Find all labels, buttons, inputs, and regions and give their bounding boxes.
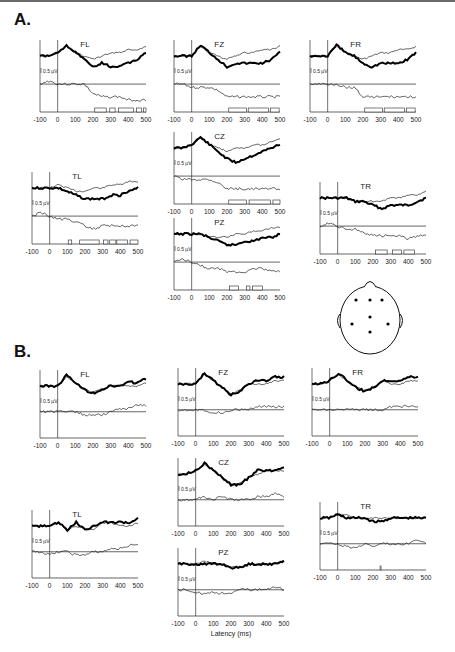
x-tick-label: 400 bbox=[257, 208, 268, 215]
x-tick-label: 100 bbox=[62, 582, 73, 589]
x-tick-label: 500 bbox=[279, 620, 290, 627]
x-tick-label: 400 bbox=[403, 258, 414, 265]
electrode-label: PZ bbox=[214, 218, 224, 227]
x-tick-label: 200 bbox=[358, 116, 369, 123]
x-tick-label: 200 bbox=[88, 116, 99, 123]
electrode-dot-pz bbox=[368, 330, 371, 333]
scale-bar-label: 0.5 µV bbox=[35, 538, 50, 544]
x-tick-label: -100 bbox=[33, 116, 46, 123]
x-tick-label: 0 bbox=[336, 258, 340, 265]
x-tick-label: -100 bbox=[167, 208, 180, 215]
x-tick-label: 300 bbox=[243, 530, 254, 537]
significance-bar bbox=[404, 250, 415, 254]
scale-bar-label: 0.5 µV bbox=[43, 398, 58, 404]
scale-bar-label: 0.5 µV bbox=[323, 530, 338, 536]
difference-waveform bbox=[312, 405, 418, 411]
electrode-dot-tr bbox=[386, 322, 389, 325]
x-tick-label: 400 bbox=[395, 440, 406, 447]
x-tick-label: 200 bbox=[360, 440, 371, 447]
x-tick-label: -100 bbox=[171, 440, 184, 447]
scale-bar-label: 0.5 µV bbox=[181, 396, 196, 402]
x-tick-label: 200 bbox=[222, 116, 233, 123]
electrode-label: FL bbox=[80, 370, 90, 379]
x-tick-label: 300 bbox=[385, 574, 396, 581]
significance-bar bbox=[380, 566, 381, 570]
x-tick-label: 200 bbox=[226, 440, 237, 447]
difference-waveform bbox=[320, 223, 426, 240]
erp-panel-b-tr: TR0.5 µV-1000100200300400500 bbox=[313, 502, 431, 581]
x-tick-label: 500 bbox=[275, 116, 286, 123]
x-tick-label: -100 bbox=[25, 582, 38, 589]
difference-waveform bbox=[178, 587, 284, 594]
x-tick-label: 300 bbox=[239, 116, 250, 123]
thick-waveform bbox=[320, 197, 426, 209]
erp-panel-b-fr: FR0.5 µV-1000100200300400500 bbox=[305, 368, 423, 447]
thick-waveform bbox=[40, 45, 146, 67]
x-axis-label: Latency (ms) bbox=[211, 630, 251, 638]
x-tick-label: 500 bbox=[141, 116, 152, 123]
erp-panel-a-tl: TL0.5 µV-1000100200300400500 bbox=[25, 172, 143, 255]
electrode-label: TL bbox=[72, 172, 82, 181]
erp-panel-b-tl: TL0.5 µV-1000100200300400500 bbox=[25, 510, 143, 589]
x-tick-label: 400 bbox=[115, 248, 126, 255]
significance-bar bbox=[80, 240, 99, 244]
electrode-label: CZ bbox=[214, 132, 225, 141]
electrode-dot-cz bbox=[368, 315, 371, 318]
erp-panel-b-cz: CZ0.5 µV-1000100200300400500 bbox=[171, 458, 289, 537]
electrode-dot-fz bbox=[368, 298, 371, 301]
x-tick-label: 500 bbox=[275, 294, 286, 301]
thin-waveform bbox=[174, 46, 280, 60]
difference-waveform bbox=[310, 83, 416, 98]
scale-bar-label: 0.5 µV bbox=[181, 576, 196, 582]
significance-bar bbox=[365, 108, 383, 112]
electrode-label: CZ bbox=[218, 458, 229, 467]
x-tick-label: 300 bbox=[105, 116, 116, 123]
x-tick-label: 0 bbox=[56, 116, 60, 123]
x-tick-label: 0 bbox=[336, 574, 340, 581]
x-tick-label: 100 bbox=[340, 116, 351, 123]
x-tick-label: 200 bbox=[222, 208, 233, 215]
significance-bar bbox=[143, 108, 146, 112]
significance-bar bbox=[406, 108, 415, 112]
thick-waveform bbox=[178, 373, 284, 395]
thick-waveform bbox=[40, 375, 146, 394]
thick-waveform bbox=[178, 561, 284, 569]
electrode-dot-tl bbox=[350, 322, 353, 325]
x-tick-label: 400 bbox=[261, 440, 272, 447]
scale-bar-label: 0.5 µV bbox=[177, 68, 192, 74]
significance-bar bbox=[376, 250, 387, 254]
x-tick-label: 500 bbox=[133, 248, 144, 255]
significance-bar bbox=[253, 286, 263, 290]
electrode-label: TL bbox=[72, 510, 82, 519]
erp-panel-a-fz: FZ0.5 µV-1000100200300400500 bbox=[167, 40, 285, 123]
significance-bar bbox=[392, 250, 401, 254]
x-tick-label: 300 bbox=[243, 440, 254, 447]
significance-bar bbox=[230, 286, 239, 290]
x-tick-label: 0 bbox=[48, 582, 52, 589]
x-tick-label: 200 bbox=[226, 530, 237, 537]
x-tick-label: 500 bbox=[141, 442, 152, 449]
erp-panel-a-pz: PZ0.5 µV-1000100200300400500 bbox=[167, 218, 285, 301]
x-tick-label: 0 bbox=[194, 620, 198, 627]
significance-bar bbox=[104, 240, 108, 244]
x-tick-label: 500 bbox=[279, 440, 290, 447]
significance-bar bbox=[270, 108, 279, 112]
erp-panel-b-pz: PZ0.5 µV-1000100200300400500Latency (ms) bbox=[171, 548, 289, 638]
thin-waveform bbox=[178, 465, 284, 484]
significance-bar bbox=[229, 108, 247, 112]
thick-waveform bbox=[32, 518, 138, 531]
x-tick-label: -100 bbox=[313, 574, 326, 581]
difference-waveform bbox=[174, 176, 280, 190]
x-tick-label: 100 bbox=[208, 440, 219, 447]
x-tick-label: 100 bbox=[350, 574, 361, 581]
x-tick-label: 100 bbox=[208, 620, 219, 627]
erp-panel-a-cz: CZ0.5 µV-1000100200300400500 bbox=[167, 132, 285, 215]
erp-panel-a-tr: TR0.5 µV-1000100200300400500 bbox=[313, 182, 431, 265]
nose-icon bbox=[364, 282, 376, 288]
scale-bar-label: 0.5 µV bbox=[177, 160, 192, 166]
x-tick-label: -100 bbox=[171, 620, 184, 627]
x-tick-label: 400 bbox=[115, 582, 126, 589]
x-tick-label: 400 bbox=[123, 442, 134, 449]
x-tick-label: 0 bbox=[326, 116, 330, 123]
x-tick-label: -100 bbox=[303, 116, 316, 123]
